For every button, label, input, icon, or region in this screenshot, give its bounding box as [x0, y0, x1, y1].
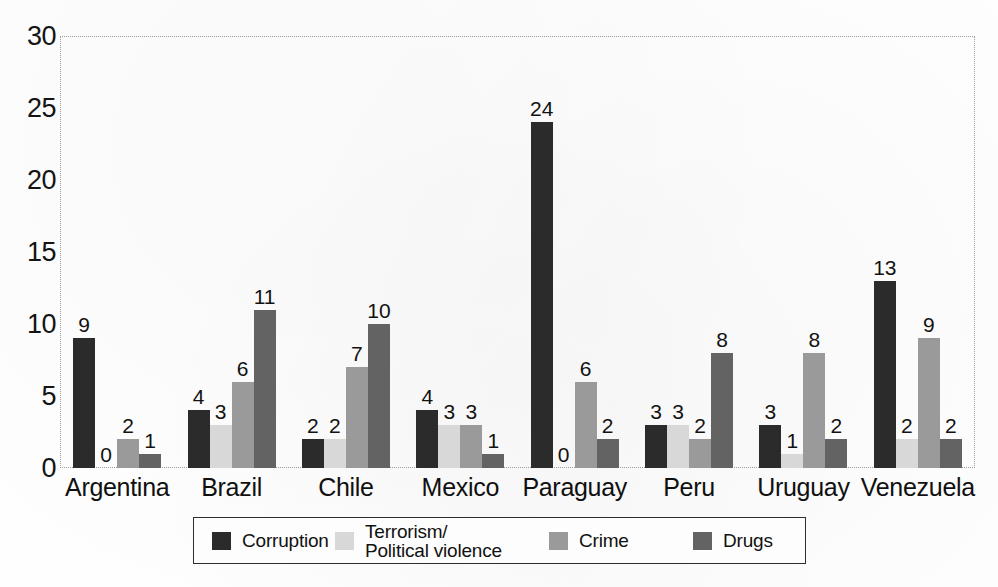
legend-item-crime: Crime [549, 518, 629, 563]
bar-value-label: 10 [359, 300, 399, 321]
bar-chile-crime [346, 367, 368, 468]
bar-paraguay-corruption [531, 122, 553, 468]
legend-swatch-icon [693, 532, 712, 550]
legend-label: Crime [579, 531, 629, 550]
bar-uruguay-crime [803, 353, 825, 468]
bar-value-label: 2 [816, 415, 856, 436]
legend-item-drugs: Drugs [693, 518, 773, 563]
bar-value-label: 1 [130, 430, 170, 451]
bar-uruguay-drugs [825, 439, 847, 468]
bar-argentina-drugs [139, 454, 161, 468]
bar-brazil-crime [232, 382, 254, 468]
y-axis-tick-label: 15 [4, 239, 56, 266]
bar-group-mexico: 4331 [416, 36, 504, 468]
chart-legend: CorruptionTerrorism/ Political violenceC… [193, 517, 806, 564]
bar-venezuela-crime [918, 338, 940, 468]
x-axis-label-venezuela: Venezuela [818, 474, 998, 500]
bar-peru-crime [689, 439, 711, 468]
bar-brazil-drugs [254, 310, 276, 468]
bar-value-label: 6 [566, 358, 606, 379]
bar-value-label: 24 [522, 98, 562, 119]
bar-group-uruguay: 3182 [759, 36, 847, 468]
bar-peru-corruption [645, 425, 667, 468]
bar-group-venezuela: 13292 [874, 36, 962, 468]
y-axis-tick-label: 30 [4, 23, 56, 50]
bar-value-label: 3 [750, 401, 790, 422]
bar-chile-corruption [302, 439, 324, 468]
legend-item-corruption: Corruption [212, 518, 329, 563]
bar-venezuela-corruption [874, 281, 896, 468]
bar-peru-drugs [711, 353, 733, 468]
bar-uruguay-terrorism-political-violence [781, 454, 803, 468]
bar-value-label: 11 [245, 286, 285, 307]
bar-group-peru: 3328 [645, 36, 733, 468]
bar-value-label: 13 [865, 257, 905, 278]
bar-paraguay-drugs [597, 439, 619, 468]
bar-group-chile: 22710 [302, 36, 390, 468]
bar-brazil-terrorism-political-violence [210, 425, 232, 468]
legend-swatch-icon [549, 532, 568, 550]
bar-venezuela-drugs [940, 439, 962, 468]
legend-swatch-icon [212, 532, 231, 550]
legend-item-terrorism-political-violence: Terrorism/ Political violence [335, 518, 502, 563]
bar-value-label: 9 [64, 314, 104, 335]
legend-swatch-icon [335, 532, 354, 550]
legend-label: Terrorism/ Political violence [365, 522, 502, 560]
y-axis-tick-label: 25 [4, 95, 56, 122]
bar-value-label: 3 [451, 401, 491, 422]
bar-group-argentina: 9021 [73, 36, 161, 468]
bars-layer: 902143611227104331240623328318213292 [60, 36, 975, 468]
bar-group-brazil: 43611 [188, 36, 276, 468]
bar-value-label: 1 [473, 430, 513, 451]
y-axis-tick-label: 20 [4, 167, 56, 194]
bar-mexico-drugs [482, 454, 504, 468]
bar-value-label: 2 [931, 415, 971, 436]
bar-value-label: 9 [909, 314, 949, 335]
legend-label: Corruption [242, 531, 329, 550]
bar-value-label: 8 [702, 329, 742, 350]
bar-mexico-terrorism-political-violence [438, 425, 460, 468]
y-axis-tick-label: 10 [4, 311, 56, 338]
bar-chart-figure: 051015202530 902143611227104331240623328… [0, 0, 998, 587]
y-axis-tick-label: 5 [4, 383, 56, 410]
bar-chile-drugs [368, 324, 390, 468]
y-axis: 051015202530 [0, 36, 56, 468]
bar-group-paraguay: 24062 [531, 36, 619, 468]
bar-chile-terrorism-political-violence [324, 439, 346, 468]
legend-label: Drugs [723, 531, 773, 550]
bar-value-label: 8 [794, 329, 834, 350]
bar-value-label: 2 [588, 415, 628, 436]
bar-venezuela-terrorism-political-violence [896, 439, 918, 468]
